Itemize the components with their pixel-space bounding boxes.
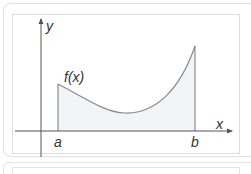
function-label: f(x) (64, 69, 84, 85)
x-axis-label: x (215, 116, 224, 132)
y-axis-label: y (45, 18, 54, 34)
shaded-area (58, 46, 195, 131)
lower-bound-label: a (54, 134, 62, 150)
upper-bound-label: b (191, 134, 199, 150)
area-under-curve-diagram: y x f(x) a b (0, 0, 251, 174)
